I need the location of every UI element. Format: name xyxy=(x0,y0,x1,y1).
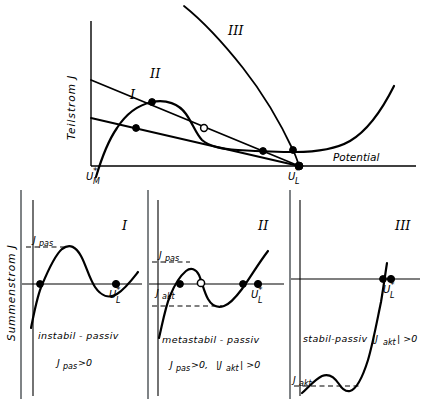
panel-II-title: II xyxy=(257,218,269,233)
panel-II-condition-1-base: J xyxy=(168,359,173,370)
panel-III-title: III xyxy=(394,218,411,233)
panel-III-condition-sub: akt xyxy=(383,338,397,347)
intersection-marker-II-passive xyxy=(290,147,297,154)
panel-III-jakt-sub: akt xyxy=(299,379,313,388)
top-chart: I II III Potential Teilstrom J U * M U *… xyxy=(0,0,422,186)
panel-I-UL-label: U * L xyxy=(109,285,121,305)
panel-I-condition-tail: >0 xyxy=(78,357,92,368)
panel-III-condition: |J akt | >0 xyxy=(372,333,417,347)
intersection-marker-II-active xyxy=(149,99,156,106)
panel-II-condition: J pas >0, |J akt | >0 xyxy=(168,359,260,373)
panel-I-zero-crossing-marker xyxy=(37,281,44,288)
panel-I-jpas-label: J pas xyxy=(31,234,53,248)
panel-III-jakt-base: J xyxy=(291,374,296,385)
panel-III-condition-tail: | >0 xyxy=(397,333,417,344)
bottom-panels: J pas U * L I instabil - passiv J pas >0… xyxy=(0,186,422,403)
panel-II-jpas-sub: pas xyxy=(164,254,179,263)
tick-label-UL-sup: * xyxy=(295,166,300,176)
tick-label-UL-sub: L xyxy=(295,177,299,186)
panel-II-jakt-base: J xyxy=(154,287,159,298)
panel-I-caption: instabil - passiv xyxy=(38,330,119,341)
panel-II-UL-label: U * L xyxy=(251,285,263,305)
panel-II-jpas-label: J pas xyxy=(157,249,179,263)
curve-label-I: I xyxy=(129,87,136,102)
panel-III: J akt U * L III stabil-passiv |J akt | >… xyxy=(291,200,420,396)
panel-I-jpas-sub: pas xyxy=(38,239,53,248)
panel-II-condition-2-base: |J xyxy=(216,359,222,370)
panel-II-jakt-sub: akt xyxy=(162,292,176,301)
panel-I-condition: J pas >0 xyxy=(55,357,92,371)
panel-II-zero-crossing-1-marker xyxy=(177,281,184,288)
panel-III-UL-sub: L xyxy=(390,291,394,300)
intersection-marker-I-passive xyxy=(260,148,267,155)
panel-I-jpas-base: J xyxy=(31,234,36,245)
panel-III-UL-sup: * xyxy=(390,280,395,290)
intersection-marker-II-unstable xyxy=(201,125,208,132)
panel-II-condition-1-sub: pas xyxy=(175,364,190,373)
panel-II-zero-crossing-2-marker xyxy=(197,279,204,286)
panel-II-condition-2-sub: akt xyxy=(226,364,240,373)
panel-I-y-axis-label: Summenstrom J xyxy=(5,244,17,341)
panel-II-condition-2-tail: | >0 xyxy=(240,359,260,370)
panel-I-title: I xyxy=(121,218,128,233)
panel-III-sum-current-curve xyxy=(302,263,387,393)
curve-label-III: III xyxy=(227,23,244,38)
panel-II-caption: metastabil - passiv xyxy=(162,334,260,345)
panel-I-UL-sub: L xyxy=(116,296,120,305)
panel-I-condition-base: J xyxy=(55,357,60,368)
tick-label-UM-sub: M xyxy=(93,177,100,186)
panel-II-UL-sup: * xyxy=(258,285,263,295)
panel-II-UL-sub: L xyxy=(258,296,262,305)
cathodic-curve-I xyxy=(91,118,299,166)
panel-I-condition-sub: pas xyxy=(62,362,77,371)
panel-II-zero-crossing-3-marker xyxy=(240,281,247,288)
tick-label-UM-sup: * xyxy=(93,166,98,176)
figure-root: I II III Potential Teilstrom J U * M U *… xyxy=(0,0,422,403)
panel-II-condition-1-tail: >0, xyxy=(191,359,208,370)
top-chart-y-axis-label: Teilstrom J xyxy=(65,75,77,140)
panel-II: J pas J akt U * L II metastabil - passiv… xyxy=(149,200,284,396)
panel-III-condition-base: |J xyxy=(372,333,378,344)
curve-label-II: II xyxy=(149,66,161,81)
cathodic-curve-II xyxy=(91,80,299,166)
panel-I-UL-sup: * xyxy=(116,285,121,295)
panel-I: J pas U * L I instabil - passiv J pas >0… xyxy=(5,200,142,396)
panel-I-sum-current-curve xyxy=(31,246,138,328)
panel-III-caption: stabil-passiv xyxy=(303,333,367,344)
intersection-marker-I-active xyxy=(133,125,140,132)
top-chart-x-axis-label: Potential xyxy=(333,151,379,163)
panel-III-zero-crossing-marker xyxy=(380,276,387,283)
tick-label-UL: U * L xyxy=(288,166,300,186)
